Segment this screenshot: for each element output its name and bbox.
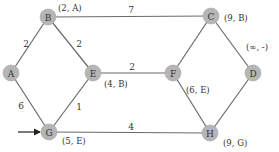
edge-g-h bbox=[49, 132, 210, 133]
edge-weight-e-g: 1 bbox=[76, 102, 82, 112]
node-h: H bbox=[202, 125, 218, 141]
node-label: A bbox=[7, 69, 15, 79]
edge-weight-g-h: 4 bbox=[128, 122, 134, 132]
distance-annotation-e: (4, B) bbox=[104, 79, 128, 89]
labels: 2672214(2, A)(9, B)(∞, -)(4, B)(6, E)(5,… bbox=[18, 3, 268, 148]
distance-annotation-b: (2, A) bbox=[58, 3, 82, 13]
node-label: E bbox=[90, 69, 97, 79]
edge-c-f bbox=[173, 16, 211, 73]
edge-weight-b-e: 2 bbox=[76, 39, 82, 49]
edge-weight-a-g: 6 bbox=[18, 101, 24, 111]
edge-weight-e-f: 2 bbox=[129, 62, 135, 72]
node-d: D bbox=[245, 65, 261, 81]
node-label: C bbox=[208, 12, 215, 22]
distance-annotation-g: (5, E) bbox=[62, 136, 86, 146]
edge-b-c bbox=[48, 16, 211, 17]
node-label: F bbox=[170, 69, 176, 79]
node-f: F bbox=[165, 65, 181, 81]
edge-e-g bbox=[49, 73, 93, 132]
distance-annotation-f: (6, E) bbox=[186, 85, 210, 95]
edge-a-g bbox=[11, 73, 49, 132]
edge-d-h bbox=[210, 73, 253, 133]
distance-annotation-d: (∞, -) bbox=[246, 42, 268, 52]
graph-diagram: ABCDEFGH 2672214(2, A)(9, B)(∞, -)(4, B)… bbox=[0, 0, 279, 152]
node-g: G bbox=[41, 124, 57, 140]
node-b: B bbox=[40, 9, 56, 25]
edge-b-e bbox=[48, 17, 93, 73]
distance-annotation-c: (9, B) bbox=[224, 13, 248, 23]
edge-a-b bbox=[11, 17, 48, 73]
distance-annotation-h: (9, G) bbox=[223, 138, 247, 148]
edge-weight-b-c: 7 bbox=[128, 5, 134, 15]
node-label: B bbox=[45, 13, 52, 23]
edge-f-h bbox=[173, 73, 210, 133]
node-label: D bbox=[249, 69, 256, 79]
node-c: C bbox=[203, 8, 219, 24]
edges bbox=[11, 16, 253, 133]
node-label: G bbox=[45, 128, 52, 138]
node-a: A bbox=[3, 65, 19, 81]
node-e: E bbox=[85, 65, 101, 81]
edge-weight-a-b: 2 bbox=[23, 39, 29, 49]
node-label: H bbox=[206, 129, 214, 139]
